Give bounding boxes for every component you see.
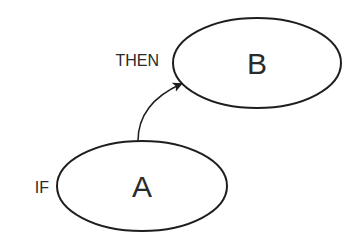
if-label: IF — [35, 179, 49, 196]
then-label: THEN — [115, 52, 159, 69]
node-a: A — [57, 141, 227, 231]
node-b-label: B — [247, 47, 267, 80]
node-a-label: A — [132, 170, 152, 203]
edge-a-to-b-arrow — [138, 84, 181, 141]
diagram-canvas: B THEN A IF — [0, 0, 363, 247]
node-b: B — [173, 18, 341, 108]
